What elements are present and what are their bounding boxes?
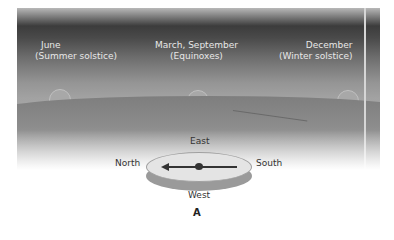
june-event: (Summer solstice) [35,51,117,62]
arrow-left-icon [161,163,169,171]
compass-east: East [190,136,209,146]
compass-icon [146,152,252,182]
label-equinox: March, September (Equinoxes) [155,40,238,62]
equinox-month: March, September [155,40,238,51]
figure-label: A [193,207,201,218]
equinox-event: (Equinoxes) [155,51,238,62]
december-event: (Winter solstice) [279,51,352,62]
compass-pivot [195,163,203,170]
compass-south: South [256,158,282,168]
label-december: December (Winter solstice) [279,40,352,62]
compass-north: North [115,158,140,168]
june-month: June [35,40,117,51]
compass-west: West [188,190,210,200]
label-june: June (Summer solstice) [35,40,117,62]
december-month: December [279,40,352,51]
